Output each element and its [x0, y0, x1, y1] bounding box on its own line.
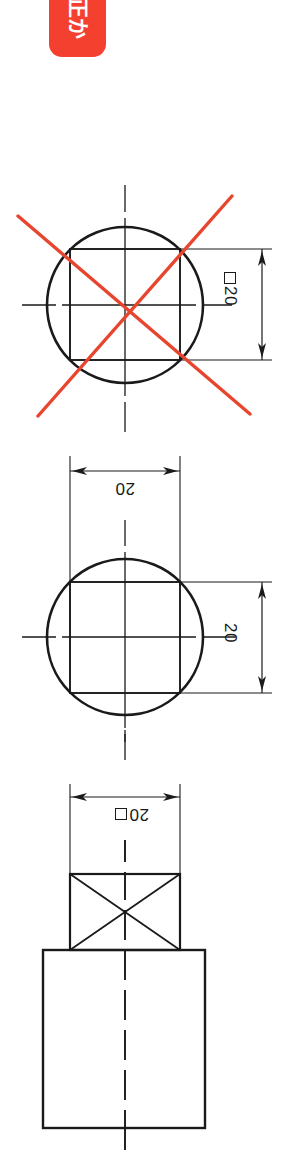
dimension-value: 20 — [221, 286, 240, 306]
dimension-value: 20 — [221, 623, 240, 643]
dimension-label-square-20-bottom: 20 — [115, 806, 149, 823]
dimension-value: 20 — [115, 479, 135, 498]
drawing-page: 正か 20 20 20 20 この — [0, 0, 288, 1170]
square-symbol-icon — [115, 808, 127, 820]
technical-drawing-canvas — [0, 0, 288, 1170]
dimension-label-20-mid-horizontal: 20 — [115, 480, 135, 497]
dimension-value: 20 — [129, 805, 149, 824]
figure-correct-linework — [22, 456, 272, 760]
figure-stepped-shaft-linework — [43, 730, 205, 1150]
badge-label: 正か — [66, 0, 88, 39]
dimension-label-20-mid-vertical: 20 — [222, 623, 239, 643]
body-rectangle — [43, 950, 205, 1128]
figure-incorrect-linework — [18, 185, 272, 432]
red-cross-stroke-1 — [18, 216, 250, 414]
dimension-label-square-20-top: 20 — [222, 272, 239, 306]
square-symbol-icon — [224, 272, 236, 284]
status-badge-correct: 正か — [49, 0, 106, 57]
